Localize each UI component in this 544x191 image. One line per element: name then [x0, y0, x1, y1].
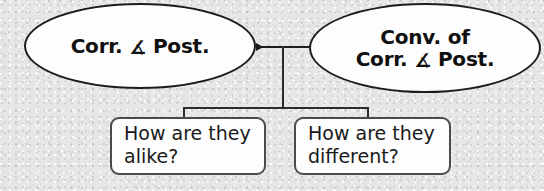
question-box-different[interactable]: How are they different?: [294, 117, 451, 175]
node-converse-of-corresponding-angles-postulate-label: Conv. of Corr. ∡ Post.: [356, 26, 495, 71]
question-box-alike[interactable]: How are they alike?: [110, 117, 266, 175]
node-corresponding-angles-postulate[interactable]: Corr. ∡ Post.: [24, 3, 256, 89]
post-abbrev-text-2: Post.: [438, 47, 494, 71]
converse-line-1: Conv. of: [356, 26, 495, 48]
question-different-line-2: different?: [308, 145, 435, 168]
question-box-different-label: How are they different?: [308, 122, 435, 168]
converse-line-2: Corr. ∡ Post.: [356, 48, 495, 70]
corr-abbrev-text-2: Corr.: [356, 47, 408, 71]
diagram-canvas: Corr. ∡ Post. Conv. of Corr. ∡ Post. How…: [0, 0, 544, 191]
corr-abbrev-text: Corr.: [71, 34, 123, 58]
measured-angle-icon-2: ∡: [414, 50, 431, 71]
question-alike-line-2: alike?: [124, 145, 251, 168]
question-box-alike-label: How are they alike?: [124, 122, 251, 168]
question-alike-line-1: How are they: [124, 122, 251, 145]
node-corresponding-angles-postulate-label: Corr. ∡ Post.: [71, 35, 210, 57]
post-abbrev-text: Post.: [153, 34, 209, 58]
question-different-line-1: How are they: [308, 122, 435, 145]
node-converse-of-corresponding-angles-postulate[interactable]: Conv. of Corr. ∡ Post.: [309, 3, 541, 93]
measured-angle-icon: ∡: [129, 37, 146, 58]
